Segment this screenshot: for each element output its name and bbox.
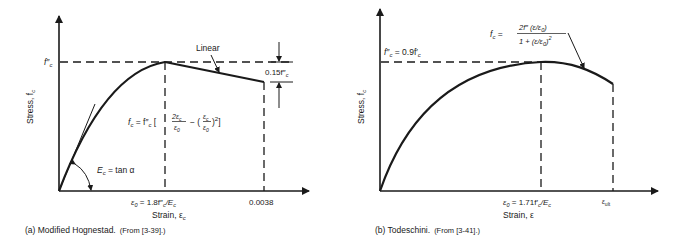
right-y-axis-label: Stress, fc: [356, 90, 367, 124]
svg-text:ε0: ε0: [203, 124, 209, 133]
left-linear-label: Linear: [196, 43, 220, 53]
left-caption: (a) Modified Hognestad.(From [3-39].): [25, 225, 166, 235]
right-chart: f″c = 0.9f′c fc = 2f″ (ε/ε0) 1 + (ε/ε0)2…: [356, 9, 658, 235]
right-equation: fc = 2f″ (ε/ε0) 1 + (ε/ε0)2: [490, 23, 566, 47]
right-x-tick-peak: ε0 = 1.71f′c/Ec: [503, 198, 551, 208]
right-equation-leader: [568, 33, 584, 68]
left-chart: Linear f″c 0.15f″c fc = f″c [ 2εc ε0 − (…: [25, 16, 309, 235]
left-x-tick-peak: ε0 = 1.8f″c/Ec: [131, 198, 176, 208]
left-x-axis-label: Strain, εc: [152, 210, 186, 221]
right-caption: (b) Todeschini.(From [3-41].): [375, 225, 480, 235]
svg-text:2εc: 2εc: [171, 113, 182, 122]
left-y-axis-label: Stress, fc: [25, 90, 36, 124]
left-drop-label: 0.15f″c: [265, 68, 289, 78]
svg-text:1 + (ε/ε0)2: 1 + (ε/ε0)2: [519, 35, 552, 47]
left-equation: fc = f″c [ 2εc ε0 − ( εc ε0 )2]: [128, 113, 221, 133]
left-linear-leader: [211, 55, 219, 72]
left-peak-label: f″c: [44, 57, 52, 68]
left-linear-segment: [165, 62, 264, 82]
right-todeschini-curve: [380, 62, 613, 191]
figure-canvas: Linear f″c 0.15f″c fc = f″c [ 2εc ε0 − (…: [0, 0, 678, 248]
svg-text:ε0: ε0: [174, 124, 180, 133]
svg-text:εc: εc: [203, 113, 209, 122]
svg-text:fc =: fc =: [490, 29, 503, 40]
right-x-axis-label: Strain, ε: [503, 210, 534, 220]
left-x-tick-ult: 0.0038: [249, 198, 274, 207]
right-x-tick-ult: εult: [602, 198, 611, 207]
left-alpha-arc: [75, 164, 91, 190]
svg-text:)2]: )2]: [212, 116, 221, 127]
right-peak-label: f″c = 0.9f′c: [384, 47, 421, 58]
svg-text:fc = f″c [: fc = f″c [: [128, 117, 157, 128]
svg-text:2f″ (ε/ε0): 2f″ (ε/ε0): [518, 23, 547, 33]
svg-text:− (: − (: [190, 117, 200, 127]
left-tangent-line: [59, 104, 95, 191]
left-modulus-label: Ec = tan α: [97, 165, 135, 176]
